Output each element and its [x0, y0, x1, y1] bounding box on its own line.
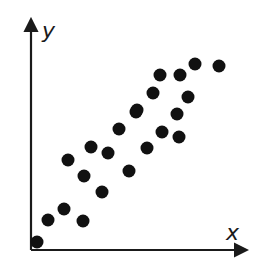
data-point: [147, 87, 160, 100]
data-point: [77, 215, 90, 228]
data-point: [141, 142, 154, 155]
data-point: [171, 108, 184, 121]
y-axis-label: y: [41, 18, 56, 43]
data-point: [85, 141, 98, 154]
data-point: [174, 69, 187, 82]
data-point: [62, 154, 75, 167]
data-points: [31, 58, 226, 249]
data-point: [154, 69, 167, 82]
data-point: [213, 60, 226, 73]
data-point: [131, 104, 144, 117]
data-point: [78, 170, 91, 183]
scatter-plot: y x: [0, 0, 257, 267]
data-point: [31, 236, 44, 249]
data-point: [156, 126, 169, 139]
data-point: [58, 203, 71, 216]
data-point: [102, 147, 115, 160]
data-point: [113, 123, 126, 136]
data-point: [182, 91, 195, 104]
data-point: [42, 214, 55, 227]
data-point: [96, 186, 109, 199]
data-point: [189, 58, 202, 71]
x-axis-label: x: [225, 220, 240, 245]
data-point: [123, 165, 136, 178]
data-point: [173, 131, 186, 144]
